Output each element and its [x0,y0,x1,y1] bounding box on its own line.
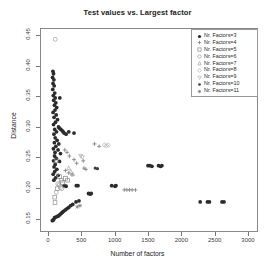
plus-icon [195,39,204,46]
x-tick-label: 0 [35,237,61,243]
x-tick-mark [48,232,49,236]
x-tick-mark [115,232,116,236]
legend-item-10[interactable]: Nr. Factors=10 [192,80,257,87]
open-square-icon [195,46,204,53]
legend-item-label: Nr. Factors=5 [204,46,237,53]
legend-item-label: Nr. Factors=4 [204,39,237,46]
x-tick-label: 1000 [102,237,128,243]
y-tick-label: 0.25 [25,149,31,164]
legend-item-5[interactable]: Nr. Factors=5 [192,46,257,53]
y-tick-mark [36,96,40,97]
x-tick-mark [81,232,82,236]
x-tick-label: 2000 [168,237,194,243]
y-tick-label: 0.40 [25,57,31,72]
y-tick-mark [36,188,40,189]
scatter-plot-figure: Test values vs. Largest factor Number of… [0,0,275,274]
x-tick-mark [248,232,249,236]
y-tick-label: 0.35 [25,88,31,103]
series-10 [94,167,99,171]
legend-item-4[interactable]: Nr. Factors=4 [192,39,257,46]
y-tick-label: 0.30 [25,118,31,133]
legend-item-label: Nr. Factors=3 [204,32,237,39]
legend-item-label: Nr. Factors=8 [204,66,237,73]
filled-circle-small-icon [195,80,204,87]
series-8 [102,143,110,148]
legend-item-6[interactable]: Nr. Factors=6 [192,53,257,60]
x-tick-mark [181,232,182,236]
open-circle-icon [195,53,204,60]
x-tick-label: 500 [68,237,94,243]
x-tick-label: 3000 [235,237,261,243]
y-axis-title: Distance [10,96,17,156]
x-tick-mark [215,232,216,236]
x-tick-label: 2500 [202,237,228,243]
legend-item-8[interactable]: Nr. Factors=8 [192,66,257,73]
legend-item-label: Nr. Factors=10 [204,80,240,87]
legend-item-label: Nr. Factors=6 [204,53,237,60]
y-tick-label: 0.15 [25,210,31,225]
y-tick-label: 0.20 [25,180,31,195]
series-11 [75,204,82,209]
legend-item-label: Nr. Factors=7 [204,60,237,67]
x-tick-mark [148,232,149,236]
legend: Nr. Factors=3Nr. Factors=4Nr. Factors=5N… [191,29,258,97]
filled-circle-icon [195,32,204,39]
y-tick-label: 0.45 [25,27,31,42]
star-icon [195,87,204,94]
x-tick-label: 1500 [135,237,161,243]
series-9 [79,154,85,159]
y-tick-mark [36,127,40,128]
legend-item-label: Nr. Factors=9 [204,73,237,80]
open-diamond-icon [195,66,204,73]
y-tick-mark [36,157,40,158]
y-tick-mark [36,219,40,220]
y-tick-mark [36,66,40,67]
legend-item-7[interactable]: Nr. Factors=7 [192,60,257,67]
triangle-down-icon [195,73,204,80]
open-triangle-icon [195,60,204,67]
legend-item-3[interactable]: Nr. Factors=3 [192,32,257,39]
page-title: Test values vs. Largest factor [0,8,275,17]
legend-item-11[interactable]: Nr. Factors=11 [192,87,257,94]
legend-item-9[interactable]: Nr. Factors=9 [192,73,257,80]
legend-item-label: Nr. Factors=11 [204,87,239,94]
x-axis-title: Number of factors [0,250,275,257]
series-7 [67,166,75,176]
series-4 [63,142,138,192]
y-tick-mark [36,35,40,36]
